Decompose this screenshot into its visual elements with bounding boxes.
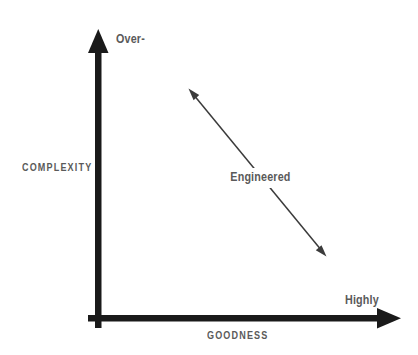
y-axis-label: COMPLEXITY (22, 162, 92, 173)
x-axis-group (88, 308, 401, 329)
x-axis-line (88, 315, 382, 322)
x-axis-arrowhead-icon (377, 308, 401, 329)
y-axis-arrowhead-icon (88, 29, 109, 53)
engineered-arrowhead-lower-right-icon (316, 245, 327, 256)
y-axis-group (88, 29, 109, 328)
engineered-annotation-label: Engineered (226, 168, 295, 188)
y-axis-tip-label: Over- (116, 33, 145, 46)
x-axis-label: GOODNESS (207, 330, 268, 341)
x-axis-tip-label: Highly (345, 294, 379, 307)
diagram-canvas: Over- COMPLEXITY GOODNESS Highly Enginee… (0, 0, 418, 355)
y-axis-line (95, 48, 102, 328)
